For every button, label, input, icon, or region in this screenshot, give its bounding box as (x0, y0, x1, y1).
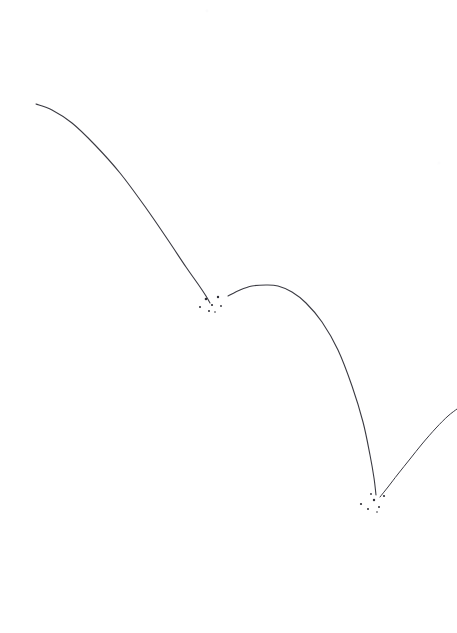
impact-speck (360, 503, 362, 505)
impact-speck (199, 306, 201, 308)
canvas-background (0, 0, 457, 633)
stray-speck (206, 10, 209, 13)
impact-speck (383, 495, 385, 497)
impact-speck (211, 304, 213, 306)
impact-speck (220, 305, 222, 307)
impact-speck (208, 310, 210, 312)
trajectory-diagram (0, 0, 457, 633)
stray-speck (437, 161, 440, 164)
impact-speck (205, 298, 208, 301)
impact-speck (217, 296, 219, 298)
sketch-canvas (0, 0, 457, 633)
impact-speck (376, 511, 378, 513)
impact-speck (367, 508, 369, 510)
impact-speck (214, 311, 216, 313)
impact-speck (373, 499, 375, 501)
impact-speck (370, 493, 372, 495)
impact-speck (378, 506, 380, 508)
